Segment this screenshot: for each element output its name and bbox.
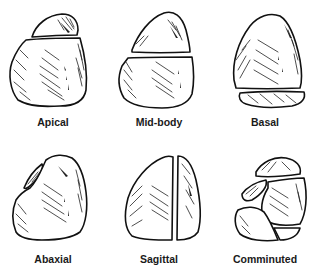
- panel-apical: Apical: [0, 0, 106, 135]
- label-basal: Basal: [212, 116, 318, 128]
- abaxial-fracture-illustration: [0, 136, 106, 251]
- basal-fracture-illustration: [212, 0, 318, 115]
- sagittal-fracture-illustration: [106, 136, 212, 251]
- label-apical: Apical: [0, 116, 106, 128]
- panel-comminuted: Comminuted: [212, 136, 318, 271]
- label-mid-body: Mid-body: [106, 116, 212, 128]
- apical-fracture-illustration: [0, 0, 106, 115]
- comminuted-fracture-illustration: [212, 136, 318, 251]
- mid-body-fracture-illustration: [106, 0, 212, 115]
- panel-sagittal: Sagittal: [106, 136, 212, 271]
- panel-abaxial: Abaxial: [0, 136, 106, 271]
- panel-basal: Basal: [212, 0, 318, 135]
- panel-mid-body: Mid-body: [106, 0, 212, 135]
- label-sagittal: Sagittal: [106, 253, 212, 265]
- label-abaxial: Abaxial: [0, 253, 106, 265]
- label-comminuted: Comminuted: [212, 253, 318, 265]
